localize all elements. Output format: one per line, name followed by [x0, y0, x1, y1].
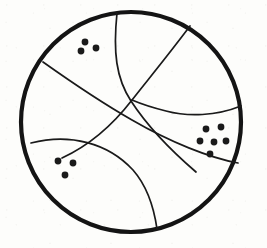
figure-canvas	[0, 0, 267, 248]
cluster-bottom-left-dot-1	[55, 158, 62, 165]
circle-partition-drawing	[0, 0, 267, 248]
cluster-top-left-dot-1	[82, 39, 89, 46]
line-right-upper-arc	[132, 100, 241, 115]
line-lower-left-arc	[31, 139, 157, 229]
line-top-vertical	[115, 13, 196, 172]
cluster-right-dot-2	[218, 124, 225, 131]
cluster-right-dot-6	[207, 151, 214, 158]
dot-clusters-layer	[55, 39, 230, 179]
outer-circle-layer	[21, 12, 241, 232]
cluster-top-left	[78, 39, 100, 55]
cluster-top-left-dot-2	[93, 45, 100, 52]
cluster-bottom-left-dot-2	[70, 160, 77, 167]
line-left-diagonal	[43, 62, 238, 163]
cluster-right-dot-1	[203, 126, 210, 133]
cluster-bottom-left	[55, 158, 77, 179]
outer-circle	[21, 12, 241, 232]
cluster-bottom-left-dot-3	[62, 172, 69, 179]
cluster-right-dot-4	[211, 139, 218, 146]
cluster-right-dot-5	[223, 138, 230, 145]
cluster-right-dot-3	[197, 138, 204, 145]
cluster-top-left-dot-3	[78, 48, 85, 55]
